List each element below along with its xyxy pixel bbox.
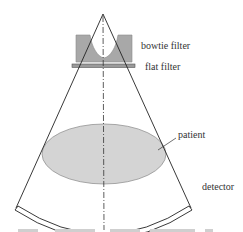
bowtie-filter xyxy=(76,35,132,62)
central-axis xyxy=(103,16,104,230)
cut-off-caption xyxy=(18,229,213,232)
detector-arc xyxy=(15,206,192,232)
label-patient: patient xyxy=(178,129,205,140)
label-flat-filter: flat filter xyxy=(145,61,181,72)
ct-geometry-diagram: bowtie filter flat filter patient detect… xyxy=(0,0,243,232)
label-detector: detector xyxy=(202,181,235,192)
label-bowtie-filter: bowtie filter xyxy=(141,40,191,51)
